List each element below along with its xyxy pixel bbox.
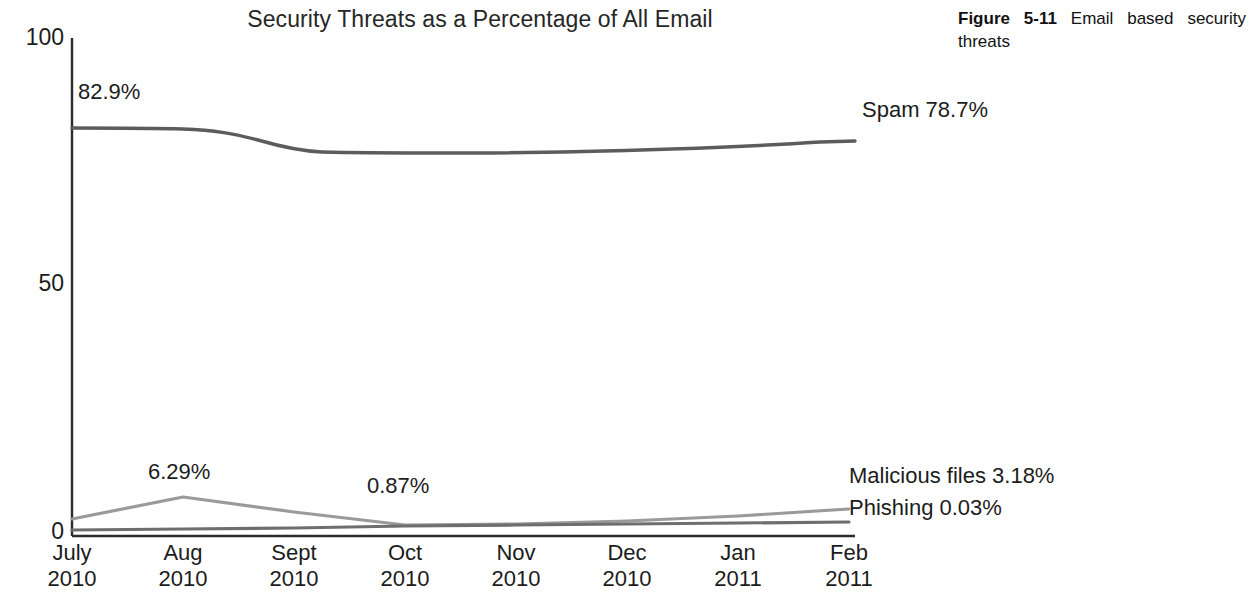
x-tick-1: Aug 2010	[133, 540, 233, 591]
y-tick-100-label: 100	[26, 26, 64, 49]
line-chart-plot	[0, 0, 940, 613]
x-tick-5-month: Dec	[577, 540, 677, 566]
x-tick-3-year: 2010	[355, 566, 455, 592]
figure-caption-label: Figure 5-11	[958, 9, 1057, 28]
x-tick-7-year: 2011	[799, 566, 899, 592]
x-tick-0-year: 2010	[22, 566, 122, 592]
x-tick-4-year: 2010	[466, 566, 566, 592]
x-tick-7: Feb 2011	[799, 540, 899, 591]
x-tick-4: Nov 2010	[466, 540, 566, 591]
x-tick-3: Oct 2010	[355, 540, 455, 591]
x-tick-2: Sept 2010	[244, 540, 344, 591]
figure-root: Security Threats as a Percentage of All …	[0, 0, 1258, 613]
x-tick-6-year: 2011	[688, 566, 788, 592]
x-tick-5: Dec 2010	[577, 540, 677, 591]
chart-area: Security Threats as a Percentage of All …	[0, 0, 940, 613]
x-tick-3-month: Oct	[355, 540, 455, 566]
x-tick-6: Jan 2011	[688, 540, 788, 591]
series-line-spam	[72, 128, 855, 153]
series-label-phishing: Phishing 0.03%	[849, 495, 1002, 521]
x-tick-6-month: Jan	[688, 540, 788, 566]
data-label-spam-july: 82.9%	[78, 79, 140, 105]
x-tick-0: July 2010	[22, 540, 122, 591]
x-tick-7-month: Feb	[799, 540, 899, 566]
x-tick-2-year: 2010	[244, 566, 344, 592]
x-tick-2-month: Sept	[244, 540, 344, 566]
x-tick-4-month: Nov	[466, 540, 566, 566]
series-line-malicious-files	[72, 497, 849, 525]
y-tick-50-label: 50	[38, 272, 64, 295]
data-label-phishing-oct: 0.87%	[367, 473, 429, 499]
x-tick-5-year: 2010	[577, 566, 677, 592]
x-tick-0-month: July	[22, 540, 122, 566]
series-label-spam: Spam 78.7%	[862, 97, 988, 123]
data-label-malicious-aug: 6.29%	[148, 459, 210, 485]
series-label-malicious-files: Malicious files 3.18%	[849, 463, 1054, 489]
x-tick-1-month: Aug	[133, 540, 233, 566]
x-tick-1-year: 2010	[133, 566, 233, 592]
figure-caption: Figure 5-11 Email based security threats	[958, 8, 1246, 54]
